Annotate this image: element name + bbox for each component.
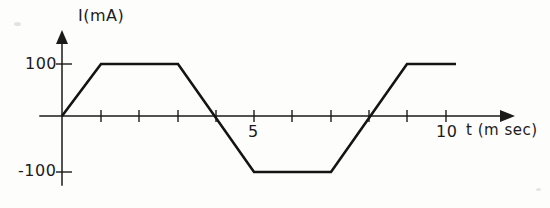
x-tick-label-5: 5 — [248, 124, 259, 140]
y-tick-label-neg-100: -100 — [18, 163, 56, 179]
waveform-plot — [0, 0, 550, 208]
y-axis — [56, 30, 68, 185]
figure-canvas: I(mA) t (m sec) 100 -100 5 10 — [0, 0, 550, 208]
y-axis-ticks — [56, 64, 72, 172]
x-axis — [40, 110, 515, 122]
y-axis-title: I(mA) — [78, 8, 124, 24]
y-tick-label-100: 100 — [25, 56, 57, 72]
y-axis-arrow-icon — [56, 30, 68, 44]
current-waveform-trace — [62, 64, 456, 172]
x-tick-label-10: 10 — [436, 124, 457, 140]
x-axis-title: t (m sec) — [466, 123, 538, 138]
